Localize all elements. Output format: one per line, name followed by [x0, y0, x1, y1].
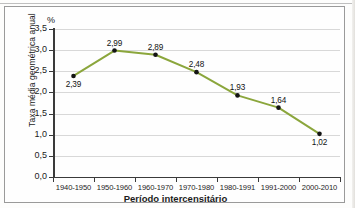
data-point-label: 2,48 [189, 60, 205, 69]
data-point-marker [112, 48, 117, 53]
x-tick-label: 1940-1950 [56, 183, 91, 192]
data-point-marker [317, 132, 322, 137]
data-point-marker [276, 105, 281, 110]
y-tick-label: 0,0 [17, 171, 47, 181]
data-point-marker [194, 70, 199, 75]
y-tick-label: 1,5 [17, 108, 47, 118]
data-point-label: 1,64 [271, 96, 287, 105]
x-tick-mark [299, 177, 300, 182]
y-tick-label: 1,0 [17, 129, 47, 139]
x-tick-label: 1991-2000 [261, 183, 296, 192]
data-point-label: 1,02 [312, 138, 328, 147]
x-tick-mark [217, 177, 218, 182]
x-tick-mark [94, 177, 95, 182]
x-tick-label: 1980-1991 [220, 183, 255, 192]
x-axis-title: Período intercensitário [5, 193, 346, 204]
y-tick-label: 2,5 [17, 65, 47, 75]
data-point-marker [71, 74, 76, 79]
y-tick-label: 0,5 [17, 150, 47, 160]
line-series [53, 29, 340, 177]
data-point-label: 2,39 [66, 80, 82, 89]
x-tick-label: 1960-1970 [138, 183, 173, 192]
y-tick-label: 3,5 [17, 23, 47, 33]
data-point-marker [235, 93, 240, 98]
data-point-label: 2,99 [107, 39, 123, 48]
data-point-label: 2,89 [148, 43, 164, 52]
x-tick-mark [340, 177, 341, 182]
x-tick-mark [258, 177, 259, 182]
y-axis-unit-label: % [47, 15, 55, 25]
y-tick-label: 2,0 [17, 86, 47, 96]
x-tick-mark [53, 177, 54, 182]
x-tick-label: 1950-1960 [97, 183, 132, 192]
data-point-marker [153, 52, 158, 57]
data-point-label: 1,93 [230, 83, 246, 92]
figure-frame: % Taxa média geométrica anual 0,00,51,01… [4, 6, 345, 203]
x-tick-label: 1970-1980 [179, 183, 214, 192]
chart-screenshot: % Taxa média geométrica anual 0,00,51,01… [0, 0, 355, 208]
x-tick-mark [135, 177, 136, 182]
x-tick-mark [176, 177, 177, 182]
page-top-rule [0, 3, 355, 4]
x-tick-label: 2000-2010 [302, 183, 337, 192]
y-tick-label: 3,0 [17, 44, 47, 54]
